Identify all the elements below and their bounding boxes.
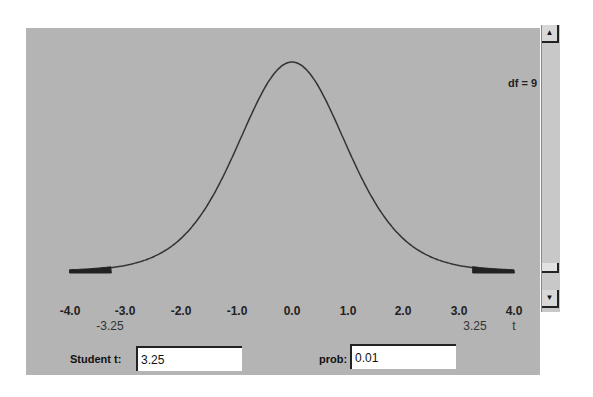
x-tick-label: -3.0 xyxy=(115,304,136,318)
df-scrollbar[interactable]: ▲ ▼ xyxy=(541,25,560,312)
scroll-thumb[interactable] xyxy=(542,263,559,273)
x-tick-label: 3.0 xyxy=(451,304,468,318)
x-tick-label: 0.0 xyxy=(284,304,301,318)
arrow-up-icon: ▲ xyxy=(546,28,554,37)
scroll-down-button[interactable]: ▼ xyxy=(542,290,559,308)
x-tick-label: 1.0 xyxy=(340,304,357,318)
x-axis-label: t xyxy=(512,319,515,333)
prob-input[interactable] xyxy=(350,344,456,369)
density-curve xyxy=(70,62,515,271)
arrow-down-icon: ▼ xyxy=(546,293,554,302)
chart-panel: df = 9 -4.0 -3.0 -2.0 -1.0 0.0 1.0 2.0 3… xyxy=(26,28,540,375)
x-tick-label: -4.0 xyxy=(60,304,81,318)
student-t-input[interactable] xyxy=(136,346,242,371)
x-tick-label: 2.0 xyxy=(395,304,412,318)
df-label: df = 9 xyxy=(508,77,537,89)
x-tick-label: -1.0 xyxy=(227,304,248,318)
right-tail-region xyxy=(473,267,515,273)
x-tick-label: 4.0 xyxy=(506,304,523,318)
left-tail-region xyxy=(70,267,112,273)
x-tick-label: -2.0 xyxy=(171,304,192,318)
scroll-up-button[interactable]: ▲ xyxy=(542,25,559,43)
critical-value-left: -3.25 xyxy=(96,319,123,333)
prob-label: prob: xyxy=(319,353,347,365)
student-t-label: Student t: xyxy=(70,353,121,365)
critical-value-right: 3.25 xyxy=(463,319,486,333)
